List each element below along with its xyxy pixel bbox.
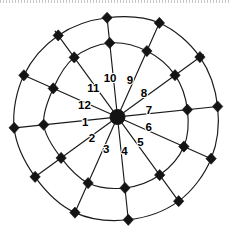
node-marker-inner-6 xyxy=(179,141,189,152)
node-marker-outer-9 xyxy=(154,17,164,28)
sector-label-1: 1 xyxy=(82,116,89,128)
center-hub-dot xyxy=(110,110,125,125)
node-marker-outer-2 xyxy=(30,171,40,182)
node-marker-outer-7 xyxy=(212,101,222,112)
spoke-1 xyxy=(15,117,115,128)
node-marker-outer-4 xyxy=(123,214,133,225)
spoke-12 xyxy=(22,74,115,116)
sector-label-10: 10 xyxy=(104,72,117,84)
node-marker-outer-6 xyxy=(206,153,216,164)
node-marker-inner-5 xyxy=(154,169,164,180)
node-marker-inner-10 xyxy=(105,37,115,48)
node-marker-outer-1 xyxy=(9,122,19,133)
sector-label-12: 12 xyxy=(78,99,91,111)
node-marker-outer-8 xyxy=(195,52,205,63)
node-marker-outer-3 xyxy=(70,207,80,218)
node-marker-inner-3 xyxy=(83,177,93,188)
radial-diagram-canvas: 123456789101112 xyxy=(0,0,230,229)
node-marker-inner-12 xyxy=(48,83,58,94)
sector-label-6: 6 xyxy=(145,121,151,133)
spoke-10 xyxy=(107,17,117,114)
spoke-4 xyxy=(118,120,129,220)
spoke-3 xyxy=(76,120,117,211)
sector-label-5: 5 xyxy=(137,136,144,148)
sector-label-2: 2 xyxy=(89,132,95,144)
node-marker-inner-4 xyxy=(120,182,130,193)
sector-label-11: 11 xyxy=(87,82,100,94)
node-marker-outer-5 xyxy=(173,196,183,207)
node-marker-outer-12 xyxy=(19,70,29,81)
spoke-7 xyxy=(120,106,220,116)
node-marker-inner-1 xyxy=(39,119,49,130)
sector-label-3: 3 xyxy=(103,143,109,155)
node-marker-inner-9 xyxy=(142,45,152,56)
spoke-9 xyxy=(119,21,161,114)
sector-label-7: 7 xyxy=(146,104,152,116)
center-hub xyxy=(110,110,125,125)
spoke-6 xyxy=(120,118,210,158)
sector-label-4: 4 xyxy=(121,145,128,157)
node-marker-outer-10 xyxy=(102,12,112,23)
node-marker-inner-8 xyxy=(170,70,180,81)
sector-label-8: 8 xyxy=(141,87,148,99)
radial-wheel-svg: 123456789101112 xyxy=(0,0,230,229)
sector-label-9: 9 xyxy=(127,74,133,86)
node-marker-inner-7 xyxy=(182,104,192,115)
node-marker-outer-11 xyxy=(53,30,63,41)
